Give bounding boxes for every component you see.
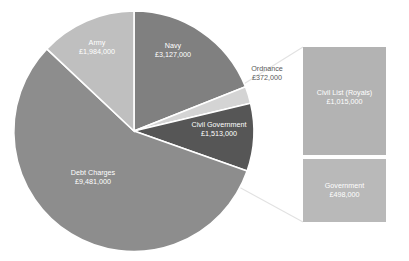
- breakout-panel: [303, 47, 386, 222]
- pie-chart-figure: [0, 0, 409, 261]
- breakout-segment-civil-list: [303, 47, 386, 155]
- breakout-segment-government: [303, 159, 386, 222]
- pie-slices: [14, 11, 254, 252]
